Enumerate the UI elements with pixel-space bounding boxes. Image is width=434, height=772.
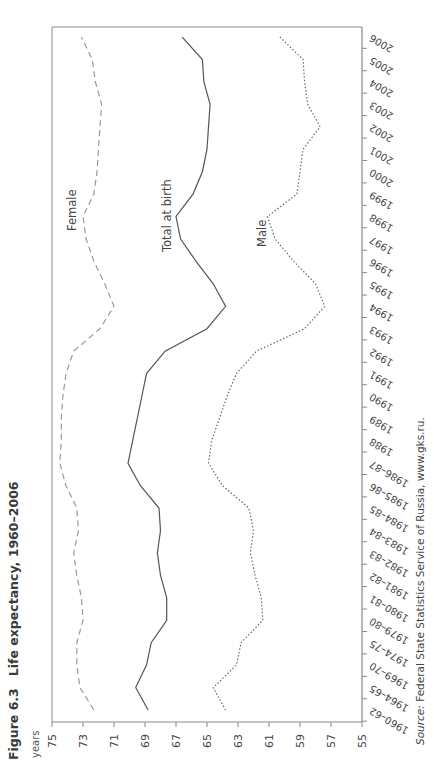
y-tick-label: 57 bbox=[325, 734, 338, 748]
series-label: Male bbox=[255, 220, 269, 247]
source-text: Federal State Statistics Service of Russ… bbox=[414, 417, 426, 702]
x-tick-label: 1998 bbox=[368, 212, 396, 234]
x-tick-label: 1995 bbox=[368, 279, 396, 301]
rotated-page: Figure 6.3Life expectancy, 1960–2006 yea… bbox=[0, 0, 434, 772]
x-tick-label: 1991 bbox=[368, 369, 396, 391]
x-tick-label: 1997 bbox=[368, 234, 396, 256]
y-tick-label: 71 bbox=[108, 734, 121, 748]
x-tick-label: 1992 bbox=[368, 346, 396, 368]
x-tick-label: 2001 bbox=[368, 145, 396, 167]
y-tick-label: 67 bbox=[170, 734, 183, 748]
x-tick-label: 1990 bbox=[368, 391, 396, 413]
y-tick-label: 55 bbox=[356, 734, 369, 748]
series-label: Total at birth bbox=[160, 179, 174, 253]
series-label: Female bbox=[65, 189, 79, 231]
y-tick-label: 69 bbox=[139, 734, 152, 748]
x-tick-label: 2005 bbox=[368, 55, 396, 77]
x-tick-label: 2006 bbox=[368, 32, 396, 54]
y-tick-label: 65 bbox=[201, 734, 214, 748]
source-label: Source: bbox=[414, 705, 426, 745]
x-tick-label: 1989 bbox=[368, 414, 396, 436]
y-tick-label: 75 bbox=[46, 734, 59, 748]
x-tick-label: 2003 bbox=[368, 100, 396, 122]
series-line-female bbox=[60, 37, 114, 710]
y-tick-label: 59 bbox=[294, 734, 307, 748]
x-tick-label: 1996 bbox=[368, 257, 396, 279]
series-line-total-at-birth bbox=[128, 37, 226, 710]
y-tick-label: 63 bbox=[232, 734, 245, 748]
x-tick-label: 1993 bbox=[368, 324, 396, 346]
source-note: Source: Federal State Statistics Service… bbox=[414, 417, 426, 745]
x-tick-label: 1994 bbox=[368, 302, 396, 324]
x-tick-label: 2004 bbox=[368, 77, 396, 99]
y-tick-label: 73 bbox=[77, 734, 90, 748]
y-tick-label: 61 bbox=[263, 734, 276, 748]
line-chart: 75737169676563615957551960–621964–651969… bbox=[0, 0, 434, 772]
x-tick-label: 2002 bbox=[368, 122, 396, 144]
x-tick-label: 1988 bbox=[368, 436, 396, 458]
series-line-male bbox=[209, 37, 325, 710]
x-tick-label: 2000 bbox=[368, 167, 396, 189]
x-tick-label: 1999 bbox=[368, 189, 396, 211]
